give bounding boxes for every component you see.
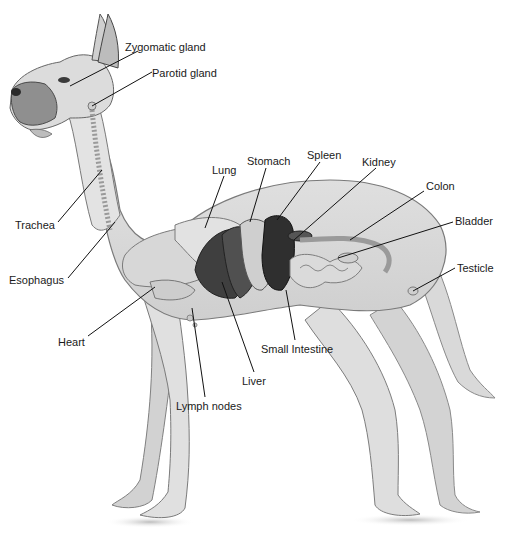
label-spleen: Spleen [307, 149, 341, 161]
label-parotid-gland: Parotid gland [152, 67, 217, 79]
dog-tongue [30, 129, 52, 137]
dog-illustration [0, 0, 507, 536]
label-kidney: Kidney [362, 156, 396, 168]
label-lung: Lung [212, 164, 236, 176]
label-small-intestine: Small Intestine [261, 343, 333, 355]
label-liver: Liver [242, 375, 266, 387]
leader-heart [88, 287, 155, 336]
shadow-front [105, 516, 195, 528]
leader-lymph-nodes [192, 308, 205, 397]
label-trachea: Trachea [15, 219, 55, 231]
label-bladder: Bladder [455, 215, 493, 227]
label-testicle: Testicle [457, 262, 494, 274]
dog-anatomy-diagram: Zygomatic gland Parotid gland Lung Stoma… [0, 0, 507, 536]
lymph-node-organ [187, 315, 193, 321]
label-heart: Heart [58, 336, 85, 348]
label-stomach: Stomach [247, 155, 290, 167]
label-zygomatic-gland: Zygomatic gland [125, 41, 206, 53]
label-esophagus: Esophagus [9, 274, 64, 286]
label-lymph-nodes: Lymph nodes [176, 400, 242, 412]
dog-eye [58, 77, 70, 83]
label-colon: Colon [426, 180, 455, 192]
leader-esophagus [68, 222, 115, 278]
dog-nose [11, 88, 21, 96]
